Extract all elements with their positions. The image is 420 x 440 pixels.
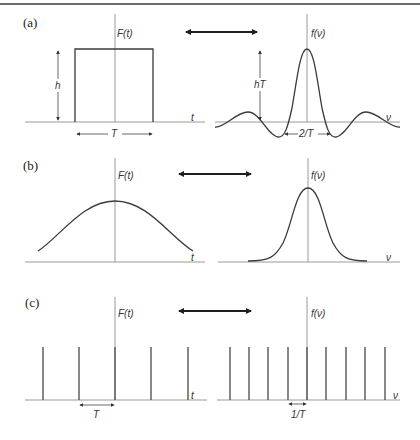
freq-axis-label: f(ν) xyxy=(311,308,325,319)
panel-c-time-plot: F(t) t T xyxy=(25,297,207,420)
time-comb-spikes xyxy=(43,347,188,400)
panel-c: (c) F(t) t T f(ν) ν xyxy=(25,295,400,420)
rectangular-pulse xyxy=(75,49,153,122)
panel-c-label: (c) xyxy=(25,295,39,310)
nu-label: ν xyxy=(386,252,391,263)
panel-a-label: (a) xyxy=(23,15,37,30)
panel-c-freq-plot: f(ν) ν 1/T xyxy=(217,297,400,420)
panel-a-time-plot: F(t) t h T xyxy=(25,14,205,140)
t-label: t xyxy=(191,390,195,401)
freq-axis-label: f(ν) xyxy=(311,28,325,39)
height-label-hT: hT xyxy=(254,79,267,90)
panel-a: (a) F(t) t h T f(ν) ν hT xyxy=(23,14,400,140)
height-label-h: h xyxy=(55,80,61,91)
width-label-2overT: 2/T xyxy=(298,128,314,139)
freq-axis-label: f(ν) xyxy=(311,170,325,181)
time-axis-label: F(t) xyxy=(118,170,134,181)
fourier-transform-pairs-figure: (a) F(t) t h T f(ν) ν hT xyxy=(0,0,420,440)
width-label-T: T xyxy=(111,128,118,139)
spacing-label-1overT: 1/T xyxy=(291,409,306,420)
spacing-label-T: T xyxy=(93,409,100,420)
time-axis-label: F(t) xyxy=(118,308,134,319)
nu-label: ν xyxy=(393,390,398,401)
freq-comb-spikes xyxy=(230,347,385,400)
time-axis-label: F(t) xyxy=(117,28,133,39)
panel-b-time-plot: F(t) t xyxy=(25,158,205,263)
t-label: t xyxy=(191,252,195,263)
panel-b-label: (b) xyxy=(23,158,38,173)
panel-b: (b) F(t) t f(ν) ν xyxy=(23,158,400,263)
t-label: t xyxy=(191,112,195,123)
